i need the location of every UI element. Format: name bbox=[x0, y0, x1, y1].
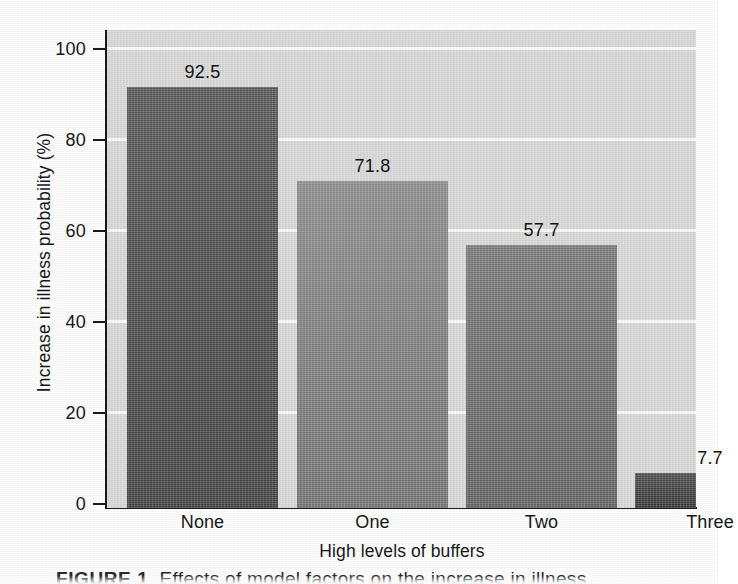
gridline-100 bbox=[107, 47, 696, 50]
bar-value-label-two: 57.7 bbox=[466, 220, 617, 241]
x-category-label-two: Two bbox=[466, 512, 617, 533]
bar-value-label-three: 7.7 bbox=[635, 448, 738, 469]
y-axis-tick-labels: 100 80 60 40 20 0 bbox=[0, 0, 86, 584]
x-category-label-one: One bbox=[297, 512, 448, 533]
y-tick-label-100: 100 bbox=[0, 39, 86, 60]
plot-area bbox=[107, 30, 696, 508]
bar-value-label-one: 71.8 bbox=[297, 156, 448, 177]
bar-none[interactable] bbox=[127, 87, 278, 508]
y-tick-label-40: 40 bbox=[0, 312, 86, 333]
bar-value-label-none: 92.5 bbox=[127, 62, 278, 83]
figure-caption-tag: FIGURE 1 bbox=[56, 572, 148, 584]
y-tick-label-20: 20 bbox=[0, 403, 86, 424]
figure-caption-truncated: FIGURE 1 Effects of model factors on the… bbox=[0, 572, 718, 584]
figure-caption-text: FIGURE 1 Effects of model factors on the… bbox=[56, 572, 586, 584]
y-tick-label-0: 0 bbox=[0, 494, 86, 515]
bar-two[interactable] bbox=[466, 245, 617, 508]
bar-three[interactable] bbox=[635, 473, 696, 508]
y-tick-label-60: 60 bbox=[0, 221, 86, 242]
x-axis-title: High levels of buffers bbox=[107, 541, 697, 562]
x-category-label-three: Three bbox=[635, 512, 738, 533]
bar-one[interactable] bbox=[297, 181, 448, 508]
y-tick-label-80: 80 bbox=[0, 130, 86, 151]
figure-caption-body: Effects of model factors on the increase… bbox=[160, 572, 587, 584]
x-category-label-none: None bbox=[127, 512, 278, 533]
